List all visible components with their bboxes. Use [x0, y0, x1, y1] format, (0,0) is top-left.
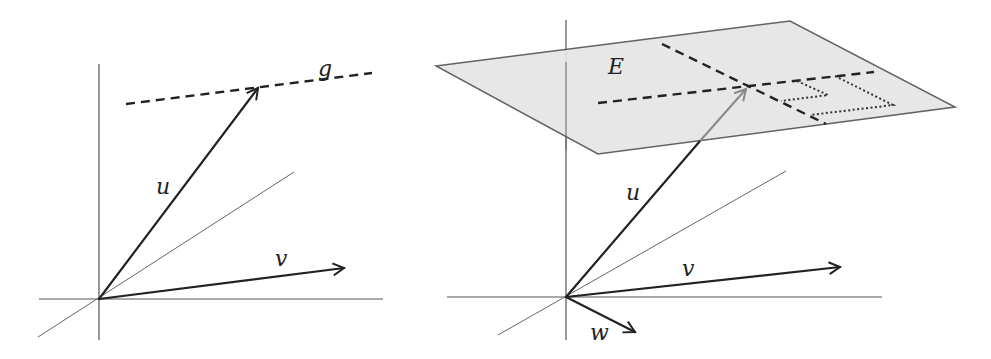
vector-diagram: g u v E u v w [0, 0, 991, 359]
left-panel: g u v [38, 56, 383, 340]
vector-u-below-plane [566, 141, 700, 297]
label-u: u [626, 180, 640, 205]
label-w: w [590, 320, 609, 345]
label-g: g [318, 56, 332, 81]
right-diagonal-axis [498, 171, 786, 335]
right-panel: E u v w [436, 20, 955, 345]
label-u: u [156, 174, 170, 199]
label-v: v [682, 256, 695, 281]
vector-v [99, 268, 344, 299]
label-v: v [275, 246, 288, 271]
vector-v [566, 267, 840, 297]
plane-E [436, 21, 955, 154]
label-E: E [607, 54, 624, 79]
vector-u [99, 88, 258, 299]
